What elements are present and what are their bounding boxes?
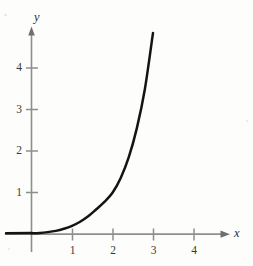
exponential-curve (32, 33, 154, 233)
scan-speck (4, 14, 7, 16)
scan-speck (8, 248, 10, 250)
scan-speck (246, 120, 248, 122)
y-axis-arrow-icon (28, 27, 35, 36)
y-tick-label-2: 2 (10, 145, 22, 157)
y-tick-label-3: 3 (10, 104, 22, 116)
x-tick-label-3: 3 (151, 245, 157, 257)
x-tick-label-4: 4 (191, 245, 197, 257)
y-axis-label: y (34, 11, 40, 24)
x-axis-arrow-icon (221, 231, 231, 238)
x-tick-label-2: 2 (110, 245, 116, 257)
figure-container: y x 1 2 3 4 1 2 3 4 (0, 0, 253, 266)
y-tick-label-4: 4 (10, 62, 22, 74)
x-axis-label: x (234, 227, 240, 240)
x-tick-label-1: 1 (70, 245, 76, 257)
y-tick-label-1: 1 (10, 187, 22, 199)
plot-area (0, 0, 253, 266)
